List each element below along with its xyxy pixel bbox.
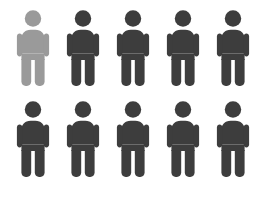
pictogram-icon-cell xyxy=(208,100,258,191)
pictogram-icon-cell xyxy=(208,9,258,100)
person-icon xyxy=(15,100,51,178)
pictogram-icon-cell xyxy=(108,100,158,191)
pictogram-chart xyxy=(0,0,260,200)
person-icon xyxy=(15,9,51,87)
pictogram-icon-cell xyxy=(158,9,208,100)
pictogram-icon-cell xyxy=(8,100,58,191)
person-icon xyxy=(215,100,251,178)
person-icon xyxy=(165,100,201,178)
person-icon xyxy=(165,9,201,87)
person-icon xyxy=(115,9,151,87)
person-icon xyxy=(115,100,151,178)
person-icon xyxy=(65,100,101,178)
pictogram-icon-cell xyxy=(58,100,108,191)
pictogram-icon-grid xyxy=(0,0,260,200)
pictogram-icon-cell xyxy=(8,9,58,100)
pictogram-icon-cell xyxy=(158,100,208,191)
person-icon xyxy=(65,9,101,87)
pictogram-icon-cell xyxy=(108,9,158,100)
pictogram-icon-cell xyxy=(58,9,108,100)
person-icon xyxy=(215,9,251,87)
